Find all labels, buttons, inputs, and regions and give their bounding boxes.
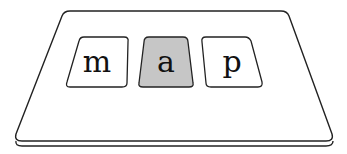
card-letter: m <box>83 44 111 79</box>
card-letter: p <box>222 44 241 79</box>
card-a-highlighted: a <box>139 37 193 87</box>
card-letter: a <box>157 44 175 79</box>
board-diagram: m a p <box>0 0 347 154</box>
board-edge <box>16 141 333 146</box>
